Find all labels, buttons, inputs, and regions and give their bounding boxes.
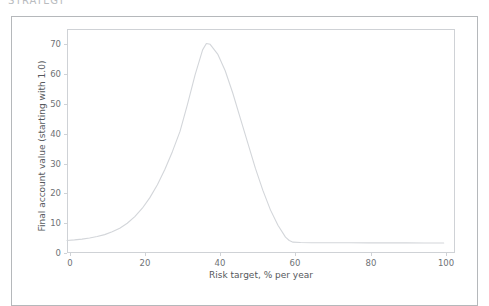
- ytick-mark-70: [64, 44, 67, 45]
- ytick-mark-30: [64, 164, 67, 165]
- ytick-mark-40: [64, 134, 67, 135]
- xtick-mark-60: [295, 253, 296, 256]
- y-axis-label: Final account value (starting with 1.0): [37, 34, 47, 258]
- xtick-mark-20: [145, 253, 146, 256]
- xtick-label-60: 60: [290, 258, 301, 268]
- xtick-label-100: 100: [438, 258, 454, 268]
- xtick-label-0: 0: [67, 258, 72, 268]
- xtick-label-40: 40: [215, 258, 226, 268]
- xtick-label-20: 20: [140, 258, 151, 268]
- ytick-mark-0: [64, 253, 67, 254]
- ytick-mark-60: [64, 74, 67, 75]
- ytick-mark-50: [64, 104, 67, 105]
- xtick-mark-100: [446, 253, 447, 256]
- xtick-label-80: 80: [366, 258, 377, 268]
- ytick-mark-20: [64, 193, 67, 194]
- xtick-mark-0: [70, 253, 71, 256]
- xtick-mark-40: [220, 253, 221, 256]
- x-axis-label: Risk target, % per year: [67, 270, 455, 280]
- xtick-mark-80: [371, 253, 372, 256]
- ytick-mark-10: [64, 223, 67, 224]
- line-series-path: [67, 29, 455, 253]
